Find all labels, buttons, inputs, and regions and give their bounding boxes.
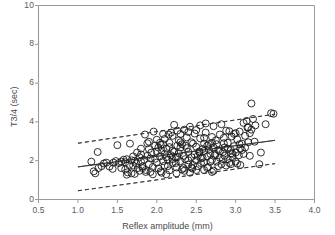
x-tick-label: 4.0 bbox=[301, 205, 329, 215]
y-tick-label: 8 bbox=[10, 38, 34, 48]
data-point bbox=[262, 121, 269, 128]
y-tick-label: 2 bbox=[10, 155, 34, 165]
data-point bbox=[141, 131, 148, 138]
x-tick-label: 0.5 bbox=[25, 205, 53, 215]
y-tick-label: 10 bbox=[10, 0, 34, 10]
chart-figure: T3/4 (sec) Reflex amplitude (mm) 0246810… bbox=[0, 0, 335, 235]
data-point bbox=[237, 145, 244, 152]
data-point bbox=[126, 140, 133, 147]
data-point bbox=[252, 122, 259, 129]
x-tick-label: 2.5 bbox=[182, 205, 210, 215]
data-point bbox=[248, 100, 255, 107]
scatter-plot-canvas bbox=[0, 0, 335, 235]
x-axis-title: Reflex amplitude (mm) bbox=[0, 221, 335, 231]
data-point bbox=[249, 115, 256, 122]
data-point bbox=[90, 168, 97, 175]
data-point bbox=[188, 139, 195, 146]
y-tick-label: 0 bbox=[10, 194, 34, 204]
lower-confidence-band bbox=[78, 164, 275, 191]
data-point bbox=[145, 138, 152, 145]
data-point bbox=[256, 161, 263, 168]
data-point bbox=[166, 139, 173, 146]
data-point bbox=[92, 170, 99, 177]
x-tick-label: 3.5 bbox=[261, 205, 289, 215]
data-point bbox=[246, 152, 253, 159]
x-tick-label: 2.0 bbox=[143, 205, 171, 215]
y-tick-label: 6 bbox=[10, 77, 34, 87]
y-tick-label: 4 bbox=[10, 116, 34, 126]
data-point bbox=[88, 158, 95, 165]
axis-frame bbox=[39, 6, 315, 200]
data-point bbox=[257, 149, 264, 156]
scatter-points bbox=[88, 100, 277, 178]
x-tick-label: 1.0 bbox=[64, 205, 92, 215]
x-tick-label: 3.0 bbox=[222, 205, 250, 215]
data-point bbox=[114, 142, 121, 149]
axis-ticks bbox=[35, 6, 315, 204]
x-tick-label: 1.5 bbox=[103, 205, 131, 215]
data-point bbox=[94, 148, 101, 155]
